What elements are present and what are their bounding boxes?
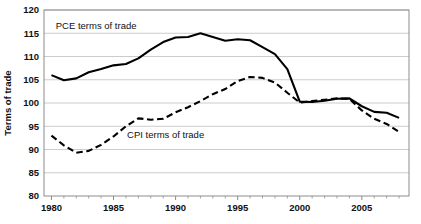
- annotation-pce-terms-of-trade: PCE terms of trade: [56, 20, 137, 31]
- x-axis-tick-marks: [51, 196, 399, 200]
- terms-of-trade-line-chart: 80859095100105110115120 1980198519901995…: [0, 0, 421, 224]
- y-tick-label-90: 90: [28, 144, 39, 155]
- y-tick-label-85: 85: [28, 167, 39, 178]
- x-tick-label-1995: 1995: [227, 202, 249, 213]
- y-tick-label-105: 105: [23, 74, 40, 85]
- y-tick-label-95: 95: [28, 121, 39, 132]
- x-tick-label-1990: 1990: [165, 202, 186, 213]
- y-axis-tick-labels: 80859095100105110115120: [23, 4, 40, 201]
- x-tick-label-2000: 2000: [289, 202, 310, 213]
- chart-container: 80859095100105110115120 1980198519901995…: [0, 0, 421, 224]
- x-tick-label-1980: 1980: [41, 202, 62, 213]
- annotation-cpi-terms-of-trade: CPI terms of trade: [127, 129, 204, 140]
- y-tick-label-110: 110: [24, 51, 39, 62]
- y-tick-label-115: 115: [24, 28, 40, 39]
- y-tick-label-120: 120: [23, 4, 39, 15]
- x-tick-label-2005: 2005: [351, 202, 373, 213]
- x-tick-label-1985: 1985: [103, 202, 125, 213]
- x-axis-tick-labels: 198019851990199520002005: [41, 202, 373, 213]
- y-axis-title: Terms of trade: [2, 70, 13, 135]
- y-tick-label-100: 100: [23, 97, 39, 108]
- y-tick-label-80: 80: [28, 190, 39, 201]
